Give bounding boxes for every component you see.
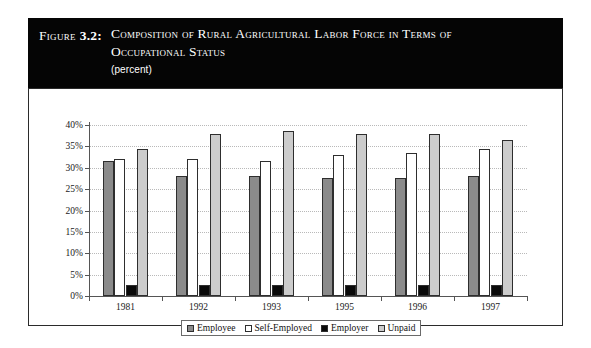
gridline xyxy=(89,125,527,126)
bar-employee-1992 xyxy=(176,176,187,296)
y-axis-tick-label: 0% xyxy=(45,291,83,301)
bar-employer-1993 xyxy=(272,285,283,296)
legend-swatch-icon xyxy=(378,325,385,332)
y-axis-tick-label: 10% xyxy=(45,248,83,258)
gridline xyxy=(89,275,527,276)
legend-swatch-icon xyxy=(245,325,252,332)
y-axis-tick-label: 30% xyxy=(45,163,83,173)
bar-employer-1995 xyxy=(345,285,356,296)
x-axis-tick-mark xyxy=(381,296,382,301)
x-axis-tick-label-1997: 1997 xyxy=(481,302,500,312)
bar-unpaid-1992 xyxy=(210,134,221,296)
legend-item-employer: Employer xyxy=(321,323,368,333)
figure-container: Figure 3.2: Composition of Rural Agricul… xyxy=(28,18,563,326)
bar-self-employed-1992 xyxy=(187,159,198,296)
x-axis-tick-mark xyxy=(308,296,309,301)
figure-header-banner: Figure 3.2: Composition of Rural Agricul… xyxy=(28,18,563,88)
figure-title-line-1: Composition of Rural Agricultural Labor … xyxy=(111,26,452,42)
bar-self-employed-1995 xyxy=(333,155,344,296)
gridline xyxy=(89,189,527,190)
legend-label: Employer xyxy=(331,323,368,333)
figure-label-group: Figure 3.2: xyxy=(39,26,102,44)
figure-subtitle: (percent) xyxy=(111,64,152,75)
bar-employee-1997 xyxy=(468,176,479,296)
bar-employer-1981 xyxy=(126,285,137,296)
x-axis-tick-label-1993: 1993 xyxy=(262,302,281,312)
y-axis-tick-label: 15% xyxy=(45,227,83,237)
figure-number: 3.2: xyxy=(80,28,102,43)
legend-item-self-employed: Self-Employed xyxy=(245,323,313,333)
chart-frame: 0%5%10%15%20%25%30%35%40% 19811992199319… xyxy=(28,88,563,326)
x-axis-tick-mark xyxy=(89,296,90,301)
bar-unpaid-1995 xyxy=(356,134,367,296)
legend-label: Employee xyxy=(197,323,236,333)
x-axis-tick-label-1996: 1996 xyxy=(408,302,427,312)
x-axis-tick-mark xyxy=(454,296,455,301)
plot-wrapper: 0%5%10%15%20%25%30%35%40% 19811992199319… xyxy=(29,89,562,325)
bar-self-employed-1993 xyxy=(260,161,271,296)
y-axis-tick-label: 20% xyxy=(45,206,83,216)
y-axis-tick-label: 35% xyxy=(45,141,83,151)
gridline xyxy=(89,211,527,212)
y-axis-tick-label: 5% xyxy=(45,270,83,280)
legend-label: Unpaid xyxy=(388,323,416,333)
chart-legend: EmployeeSelf-EmployedEmployerUnpaid xyxy=(181,320,421,336)
bar-unpaid-1993 xyxy=(283,131,294,296)
figure-title-line-2: Occupational Status xyxy=(111,44,225,60)
x-axis-tick-mark xyxy=(235,296,236,301)
x-axis-tick-label-1992: 1992 xyxy=(189,302,208,312)
y-axis-tick-label: 25% xyxy=(45,184,83,194)
bar-employer-1997 xyxy=(491,285,502,296)
x-axis-tick-label-1981: 1981 xyxy=(116,302,135,312)
bar-self-employed-1997 xyxy=(479,149,490,296)
bar-employer-1996 xyxy=(418,285,429,296)
bar-self-employed-1981 xyxy=(114,159,125,296)
bar-unpaid-1997 xyxy=(502,140,513,296)
bar-unpaid-1981 xyxy=(137,149,148,296)
gridline xyxy=(89,253,527,254)
gridline xyxy=(89,146,527,147)
legend-label: Self-Employed xyxy=(255,323,313,333)
gridline xyxy=(89,168,527,169)
legend-item-employee: Employee xyxy=(187,323,236,333)
x-axis-tick-mark xyxy=(162,296,163,301)
legend-swatch-icon xyxy=(321,325,328,332)
bar-self-employed-1996 xyxy=(406,153,417,296)
bar-unpaid-1996 xyxy=(429,134,440,296)
figure-label: Figure xyxy=(39,28,76,43)
legend-item-unpaid: Unpaid xyxy=(378,323,416,333)
bar-employee-1995 xyxy=(322,178,333,296)
bar-employee-1981 xyxy=(103,161,114,296)
bar-employer-1992 xyxy=(199,285,210,296)
gridline xyxy=(89,232,527,233)
y-axis-line xyxy=(89,122,90,299)
bar-employee-1996 xyxy=(395,178,406,296)
x-axis-tick-mark xyxy=(527,296,528,301)
x-axis-tick-label-1995: 1995 xyxy=(335,302,354,312)
legend-swatch-icon xyxy=(187,325,194,332)
bar-employee-1993 xyxy=(249,176,260,296)
y-axis-tick-label: 40% xyxy=(45,120,83,130)
